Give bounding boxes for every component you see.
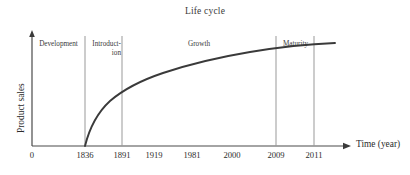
phase-label-introduction: Introduct- ion [86, 40, 121, 57]
x-axis-title: Time (year) [356, 139, 400, 149]
phase-label-growth: Growth [123, 40, 275, 49]
x-tick-label-1919: 1919 [134, 150, 174, 160]
y-axis-arrow-icon [29, 30, 35, 37]
y-axis-title: Product sales [16, 83, 26, 133]
phase-label-introduction-line1: Introduct- [92, 40, 121, 48]
x-tick-label-2009: 2009 [256, 150, 296, 160]
life-cycle-chart-figure: Life cycle Product sales Time (year) Dev… [0, 0, 410, 175]
phase-label-development: Development [33, 40, 84, 49]
phase-label-maturity: Maturity [277, 40, 314, 49]
x-tick-label-2011: 2011 [294, 150, 334, 160]
phase-label-introduction-line2: ion [112, 49, 121, 57]
x-tick-label-1981: 1981 [172, 150, 212, 160]
x-axis-arrow-icon [343, 143, 351, 149]
x-tick-label-1836: 1836 [65, 150, 105, 160]
plot-area [0, 0, 410, 175]
x-tick-label-0: 0 [12, 150, 52, 160]
x-tick-label-2000: 2000 [212, 150, 252, 160]
